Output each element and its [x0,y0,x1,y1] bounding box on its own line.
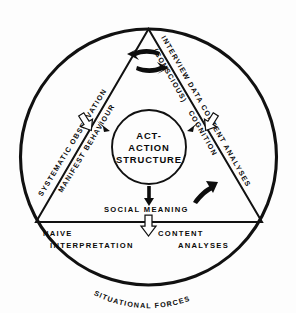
act-action-structure-diagram: ACT- ACTION STRUCTURE SYSTEMATIC OBSERVA… [0,0,296,313]
label-systematic-observation: SYSTEMATIC OBSERVATION [36,87,109,198]
label-interpretation: INTERPRETATION [50,241,134,250]
label-content: CONTENT [158,229,204,238]
center-label-line3: STRUCTURE [116,154,182,165]
label-social-meaning: SOCIAL MEANING [104,205,189,214]
center-label-line2: ACTION [128,142,169,153]
diagram-canvas: ACT- ACTION STRUCTURE SYSTEMATIC OBSERVA… [0,0,296,313]
arrow-lower-right-feedback [193,181,218,204]
label-situational-forces: SITUATIONAL FORCES [93,288,192,310]
arrow-circle-to-social-meaning [144,186,154,206]
center-label-line1: ACT- [136,130,161,141]
arrow-hollow-bottom-outflow [141,215,156,236]
label-analyses: ANALYSES [178,241,229,250]
label-naive: NAIVE [43,229,73,238]
